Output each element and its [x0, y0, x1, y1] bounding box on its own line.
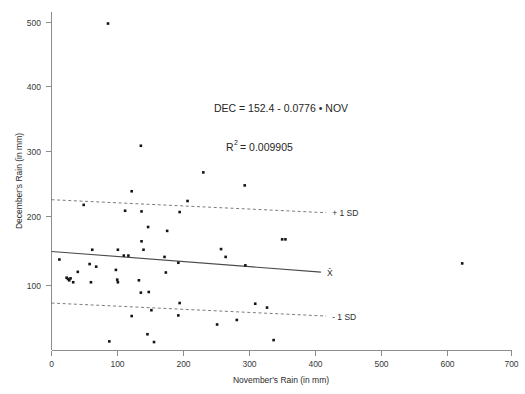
x-axis-tick-labels: 0 100 200 300 400 500 600 700 [49, 359, 519, 369]
data-point [116, 278, 119, 281]
data-point [90, 281, 93, 284]
x-axis-ticks [52, 351, 512, 357]
data-point [272, 339, 275, 342]
r-squared-base: R [226, 141, 234, 153]
data-point [216, 323, 219, 326]
data-point [138, 279, 141, 282]
data-point [461, 262, 464, 265]
r-squared-exponent: 2 [234, 139, 238, 146]
data-point [140, 240, 143, 243]
r-squared-value: = 0.009905 [240, 141, 293, 153]
data-point [186, 200, 189, 203]
data-point [124, 209, 127, 212]
data-point [220, 248, 223, 251]
plot-svg: 500 400 300 200 100 0 100 200 300 400 50… [0, 0, 525, 394]
data-point [117, 248, 120, 251]
y-tick-label-300: 300 [27, 147, 41, 157]
regression-equation: DEC = 152.4 - 0.0776 • NOV [214, 102, 348, 114]
x-tick-label-0: 0 [49, 359, 54, 369]
data-point [224, 256, 227, 259]
data-point [147, 226, 150, 229]
data-point [127, 254, 130, 257]
data-point [108, 340, 111, 343]
data-point [130, 190, 133, 193]
x-tick-label-300: 300 [242, 359, 256, 369]
data-point [122, 254, 125, 257]
x-tick-label-600: 600 [440, 359, 454, 369]
r-squared-annotation: R 2 = 0.009905 [226, 139, 293, 153]
data-point [82, 204, 85, 207]
trend-line-label-plus-1-sd: + 1 SD [332, 208, 358, 218]
data-point [146, 333, 149, 336]
data-point [281, 238, 284, 241]
data-point [177, 314, 180, 317]
x-tick-label-400: 400 [308, 359, 322, 369]
trend-line-label-minus-1-sd: - 1 SD [332, 312, 356, 322]
y-axis-title: December's Rain (in mm) [14, 133, 24, 229]
trend-line-labels-layer: + 1 SDX̄- 1 SD [327, 208, 358, 321]
y-axis-tick-labels: 500 400 300 200 100 [27, 18, 41, 291]
data-point [117, 281, 120, 284]
data-point [130, 315, 133, 318]
data-point [88, 263, 91, 266]
data-point [58, 258, 61, 261]
trend-line-label-mean-fit: X̄ [327, 268, 333, 278]
y-tick-label-400: 400 [27, 82, 41, 92]
data-point [165, 271, 168, 274]
x-tick-label-500: 500 [374, 359, 388, 369]
data-point [163, 256, 166, 259]
y-tick-label-100: 100 [27, 281, 41, 291]
trend-line-minus-1-sd [52, 303, 327, 316]
scatter-points-layer [58, 22, 463, 343]
data-point [178, 211, 181, 214]
data-point [178, 302, 181, 305]
x-axis-title: November's Rain (in mm) [233, 375, 329, 385]
y-axis-ticks [46, 23, 52, 286]
data-point [202, 171, 205, 174]
data-point [140, 210, 143, 213]
data-point [107, 22, 110, 25]
data-point [115, 269, 118, 272]
data-point [243, 184, 246, 187]
data-point [140, 144, 143, 147]
y-tick-label-500: 500 [27, 18, 41, 28]
data-point [266, 306, 269, 309]
data-point [236, 319, 239, 322]
data-point [147, 291, 150, 294]
data-point [166, 230, 169, 233]
trend-lines-layer [52, 200, 327, 316]
data-point [95, 265, 98, 268]
data-point [142, 248, 145, 251]
x-tick-label-100: 100 [110, 359, 124, 369]
data-point [177, 261, 180, 264]
data-point [254, 302, 257, 305]
data-point [284, 238, 287, 241]
data-point [69, 277, 72, 280]
data-point [91, 248, 94, 251]
x-tick-label-200: 200 [176, 359, 190, 369]
data-point [150, 309, 153, 312]
data-point [76, 271, 79, 274]
data-point [72, 281, 75, 284]
y-tick-label-200: 200 [27, 212, 41, 222]
trend-line-plus-1-sd [52, 200, 327, 213]
data-point [140, 291, 143, 294]
data-point [153, 341, 156, 344]
x-tick-label-700: 700 [504, 359, 518, 369]
data-point [244, 264, 247, 267]
trend-line-mean-fit [52, 251, 321, 272]
scatter-chart: 500 400 300 200 100 0 100 200 300 400 50… [0, 0, 525, 394]
